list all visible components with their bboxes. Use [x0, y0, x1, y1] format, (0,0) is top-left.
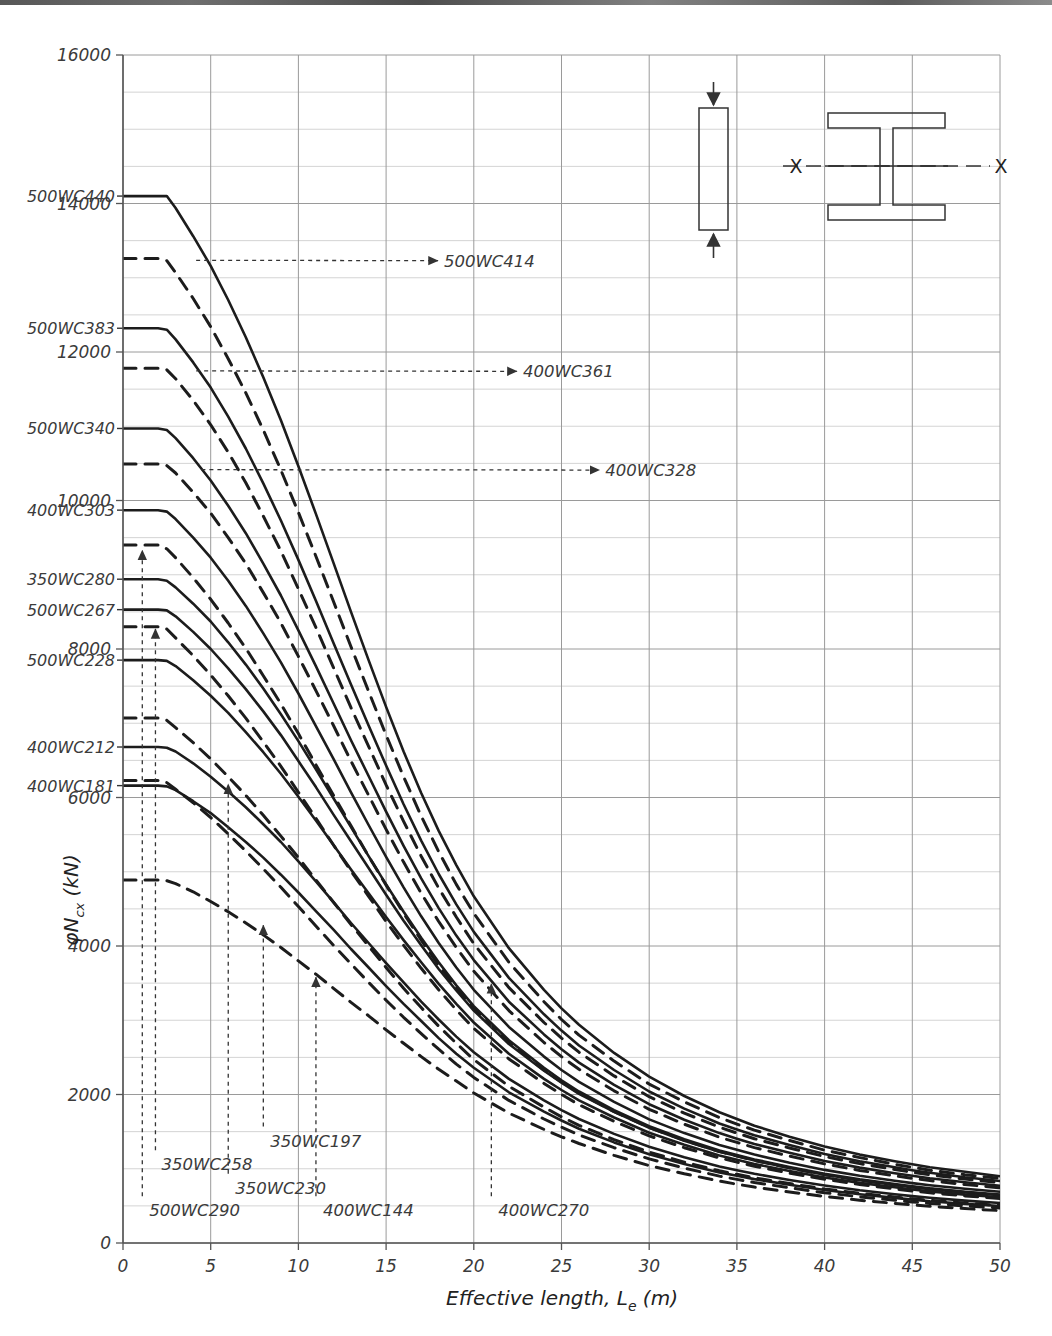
section-label-left: 400WC303	[27, 501, 115, 520]
column-sketch-group	[699, 82, 728, 258]
section-label-left: 500WC267	[27, 601, 116, 620]
axis-label-left-x: X	[789, 155, 802, 177]
x-tick-label: 50	[989, 1256, 1011, 1276]
section-label-left: 500WC340	[27, 419, 115, 438]
section-label-left: 400WC181	[27, 777, 115, 796]
y-axis-title-phi: φ	[59, 933, 83, 946]
x-tick-label: 45	[901, 1256, 923, 1276]
y-tick-label: 12000	[57, 342, 111, 362]
section-labels-callout: 500WC414400WC361400WC328	[444, 252, 696, 480]
x-tick-label: 35	[726, 1256, 748, 1276]
chart-page: 0200040006000800010000120001400016000051…	[0, 0, 1052, 1336]
column-with-axial-load-icon	[699, 108, 728, 230]
section-label-left: 500WC228	[27, 651, 115, 670]
x-tick-label: 0	[118, 1256, 129, 1276]
x-tick-label: 20	[463, 1256, 485, 1276]
y-tick-label: 16000	[57, 45, 111, 65]
x-axis-title: Effective length, Le (m)	[446, 1286, 678, 1314]
y-axis-title-group: φNcx (kN)	[59, 854, 87, 946]
y-axis-title: φNcx (kN)	[59, 854, 87, 946]
x-axis-title-sub: e	[628, 1298, 637, 1314]
axis-tick-labels: 0200040006000800010000120001400016000051…	[57, 45, 1011, 1276]
y-axis-title-unit: (kN)	[59, 854, 83, 903]
section-label-left: 400WC212	[27, 738, 115, 757]
x-tick-label: 5	[205, 1256, 216, 1276]
section-label-bottom: 350WC230	[235, 1179, 326, 1198]
section-label-left: 350WC280	[27, 570, 115, 589]
x-tick-label: 30	[638, 1256, 660, 1276]
section-label-bottom: 400WC270	[498, 1201, 589, 1220]
x-tick-label: 15	[375, 1256, 397, 1276]
section-label-bottom: 350WC197	[270, 1132, 361, 1151]
section-label-bottom: 400WC144	[323, 1201, 414, 1220]
column-capacity-chart: 0200040006000800010000120001400016000051…	[0, 0, 1052, 1336]
section-label-callout: 400WC361	[523, 362, 614, 381]
y-tick-label: 2000	[68, 1085, 111, 1105]
section-label-callout: 400WC328	[605, 461, 696, 480]
x-tick-label: 40	[814, 1256, 836, 1276]
section-label-left: 500WC383	[27, 319, 115, 338]
section-label-callout: 500WC414	[444, 252, 535, 271]
section-label-bottom: 350WC258	[162, 1155, 253, 1174]
y-axis-title-n: N	[59, 918, 83, 933]
section-label-left: 500WC440	[27, 187, 115, 206]
x-axis-title-main: Effective length, L	[446, 1286, 628, 1310]
axis-label-right-x: X	[994, 155, 1007, 177]
y-tick-label: 0	[100, 1233, 111, 1253]
y-axis-title-sub: cx	[72, 902, 87, 917]
x-axis-title-unit: (m)	[637, 1286, 678, 1310]
grid-major-lines	[123, 55, 1000, 1243]
x-tick-label: 10	[288, 1256, 310, 1276]
section-label-bottom: 500WC290	[149, 1201, 240, 1220]
section-labels-bottom: 500WC290350WC258350WC230350WC197400WC144…	[149, 1132, 589, 1221]
x-tick-label: 25	[551, 1256, 573, 1276]
